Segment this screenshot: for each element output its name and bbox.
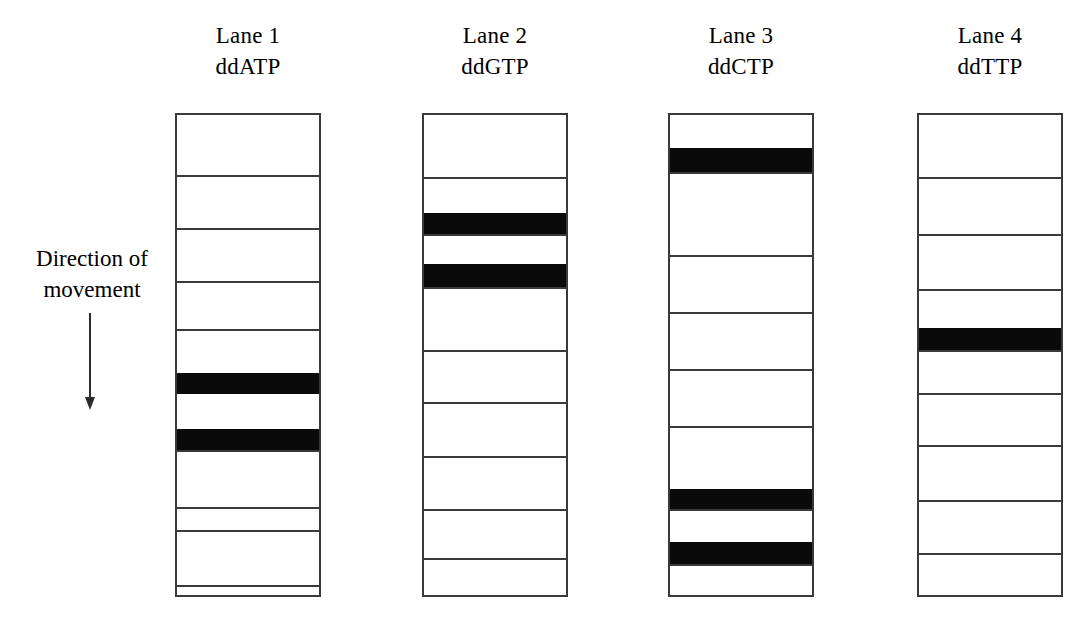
arrow-head xyxy=(85,397,95,410)
lane-subtitle-2: ddGTP xyxy=(422,51,568,82)
lane-divider xyxy=(919,553,1061,555)
lane-divider xyxy=(919,393,1061,395)
lane-divider xyxy=(177,175,319,177)
direction-of-movement-label: Direction of movement xyxy=(8,243,176,305)
lane-divider xyxy=(919,500,1061,502)
lane-divider xyxy=(177,281,319,283)
dna-band xyxy=(670,542,812,564)
lane-divider xyxy=(177,530,319,532)
lane-divider xyxy=(177,228,319,230)
lane-subtitle-4: ddTTP xyxy=(917,51,1063,82)
lane-divider xyxy=(919,445,1061,447)
gel-lane-1 xyxy=(175,113,321,597)
dna-band xyxy=(424,213,566,234)
lane-divider xyxy=(919,234,1061,236)
lane-divider xyxy=(919,289,1061,291)
direction-label-line-1: Direction of xyxy=(8,243,176,274)
lane-divider xyxy=(670,312,812,314)
dna-band xyxy=(177,429,319,450)
lane-title-2: Lane 2 xyxy=(422,20,568,51)
lane-header-1: Lane 1 ddATP xyxy=(175,20,321,82)
lane-title-1: Lane 1 xyxy=(175,20,321,51)
lane-divider xyxy=(177,507,319,509)
lane-divider xyxy=(424,456,566,458)
dna-band xyxy=(670,489,812,509)
lane-divider xyxy=(670,172,812,174)
lane-divider xyxy=(670,426,812,428)
lane-header-2: Lane 2 ddGTP xyxy=(422,20,568,82)
sequencing-gel-figure: Direction of movement Lane 1 ddATP Lane … xyxy=(0,0,1087,625)
lane-divider xyxy=(424,402,566,404)
lane-divider xyxy=(670,255,812,257)
lane-divider xyxy=(670,369,812,371)
direction-label-line-2: movement xyxy=(8,274,176,305)
lane-subtitle-1: ddATP xyxy=(175,51,321,82)
lane-subtitle-3: ddCTP xyxy=(668,51,814,82)
lane-divider xyxy=(424,234,566,236)
dna-band xyxy=(177,373,319,394)
lane-divider xyxy=(424,350,566,352)
lane-header-3: Lane 3 ddCTP xyxy=(668,20,814,82)
dna-band xyxy=(919,328,1061,350)
lane-divider xyxy=(919,350,1061,352)
dna-band xyxy=(670,148,812,172)
lane-divider xyxy=(424,177,566,179)
lane-title-3: Lane 3 xyxy=(668,20,814,51)
lane-divider xyxy=(424,287,566,289)
gel-lane-3 xyxy=(668,113,814,597)
arrow-shaft xyxy=(89,313,91,397)
lane-divider xyxy=(670,564,812,566)
lane-header-4: Lane 4 ddTTP xyxy=(917,20,1063,82)
down-arrow-icon xyxy=(89,313,91,410)
gel-lane-2 xyxy=(422,113,568,597)
lane-divider xyxy=(424,558,566,560)
dna-band xyxy=(424,264,566,287)
lane-divider xyxy=(177,450,319,452)
lane-divider xyxy=(424,509,566,511)
lane-divider xyxy=(177,585,319,587)
gel-lane-4 xyxy=(917,113,1063,597)
lane-divider xyxy=(670,509,812,511)
lane-title-4: Lane 4 xyxy=(917,20,1063,51)
lane-divider xyxy=(177,329,319,331)
lane-divider xyxy=(919,177,1061,179)
